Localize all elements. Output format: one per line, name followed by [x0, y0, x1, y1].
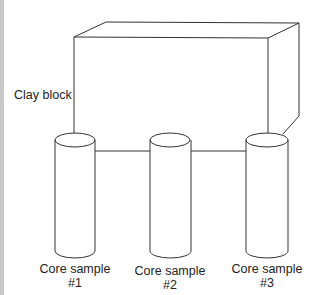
- core-sample-1-label: Core sample #1: [34, 262, 116, 290]
- sample-number: #1: [34, 276, 116, 290]
- sample-name: Core sample: [226, 262, 308, 276]
- clay-block-label: Clay block: [14, 88, 72, 102]
- clay-block-diagram: [0, 0, 312, 295]
- core-sample-3-label: Core sample #3: [226, 262, 308, 290]
- sample-name: Core sample: [34, 262, 116, 276]
- sample-number: #2: [129, 278, 211, 292]
- core-sample-3-cylinder: [246, 133, 288, 258]
- sample-number: #3: [226, 276, 308, 290]
- core-sample-2-label: Core sample #2: [129, 264, 211, 292]
- core-sample-2-cylinder: [150, 133, 191, 258]
- clay-block-outline: [74, 22, 299, 151]
- core-sample-1-cylinder: [55, 133, 95, 258]
- sample-name: Core sample: [129, 264, 211, 278]
